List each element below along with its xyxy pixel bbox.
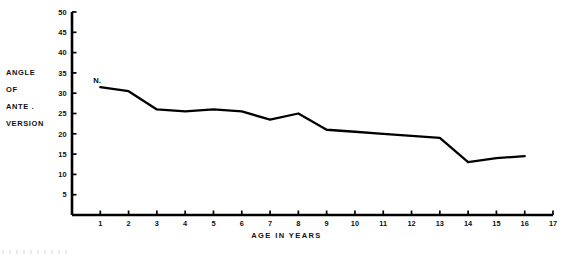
plot-area: 5101520253035404550 12345678910111213141… [0, 0, 573, 259]
x-axis-tick-label: 11 [379, 219, 387, 228]
x-axis-tick-label: 2 [127, 219, 131, 228]
x-axis-tick-label: 9 [325, 219, 329, 228]
x-axis-tick-label: 14 [464, 219, 473, 228]
data-series-group: N. [93, 76, 524, 163]
x-axis: 1234567891011121314151617 [72, 211, 557, 228]
x-axis-tick-label: 15 [492, 219, 500, 228]
y-axis-tick-label: 40 [58, 48, 66, 57]
y-axis-tick-label: 30 [58, 89, 66, 98]
x-axis-tick-label: 17 [549, 219, 557, 228]
x-axis-tick-label: 5 [211, 219, 215, 228]
scan-artifact [2, 250, 72, 254]
y-axis-tick-label: 10 [58, 170, 66, 179]
y-axis-tick-label: 35 [58, 69, 66, 78]
x-axis-tick-label: 6 [240, 219, 244, 228]
x-axis-tick-label: 1 [98, 219, 102, 228]
series-label-n: N. [93, 76, 101, 85]
chart-figure: ANGLE OF ANTE . VERSION AGE IN YEARS 510… [0, 0, 573, 259]
y-axis-tick-label: 45 [58, 28, 66, 37]
x-axis-tick-label: 16 [521, 219, 529, 228]
y-axis-tick-label: 50 [58, 8, 66, 17]
x-axis-tick-label: 10 [351, 219, 359, 228]
x-axis-tick-label: 3 [155, 219, 159, 228]
data-line-n [100, 87, 524, 162]
x-axis-tick-label: 4 [183, 219, 188, 228]
x-axis-tick-label: 13 [436, 219, 444, 228]
y-axis-tick-label: 5 [62, 190, 66, 199]
y-axis: 5101520253035404550 [58, 8, 76, 215]
y-axis-tick-label: 25 [58, 109, 66, 118]
x-axis-tick-label: 7 [268, 219, 272, 228]
y-axis-tick-label: 20 [58, 130, 66, 139]
x-axis-tick-label: 8 [296, 219, 300, 228]
x-axis-tick-label: 12 [407, 219, 415, 228]
y-axis-tick-label: 15 [58, 150, 66, 159]
